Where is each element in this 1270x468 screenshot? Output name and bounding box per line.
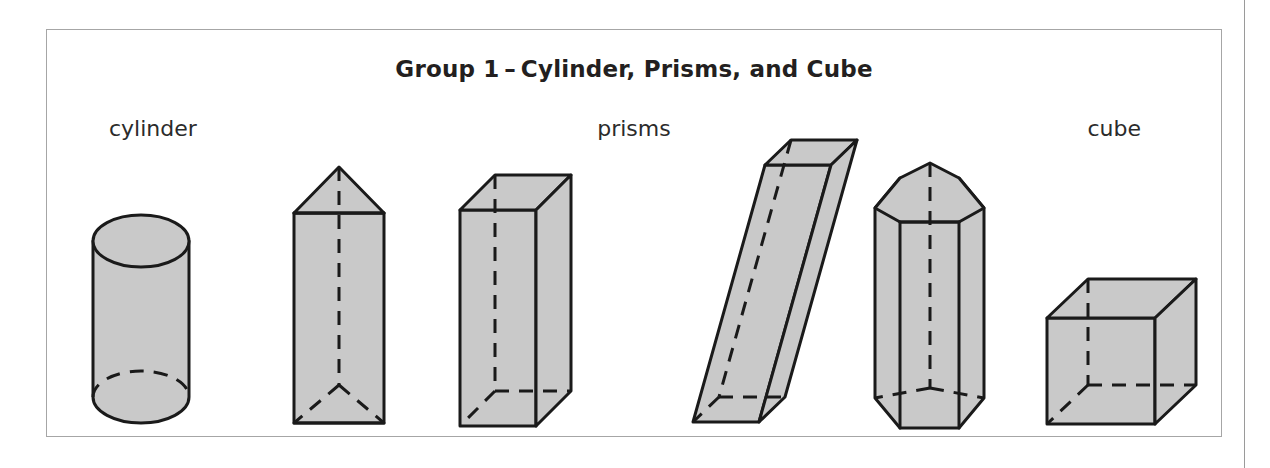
shape-pentagonal-prism [875, 163, 984, 428]
shape-cylinder [93, 215, 189, 423]
shape-cube [1047, 279, 1196, 424]
shape-triangular-prism [294, 167, 384, 423]
shape-oblique-prism [693, 140, 857, 422]
page-edge-rule [1244, 0, 1245, 468]
shapes-canvas: .fill { fill: #c9c9c9; stroke: #1a1a1a; … [47, 30, 1223, 438]
shape-rectangular-prism [460, 175, 571, 426]
page: Group 1 – Cylinder, Prisms, and Cube cyl… [0, 0, 1270, 468]
figure-box: Group 1 – Cylinder, Prisms, and Cube cyl… [46, 29, 1222, 437]
